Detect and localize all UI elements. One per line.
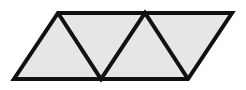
figure-canvas	[0, 0, 246, 90]
parallelogram-figure	[0, 0, 246, 90]
